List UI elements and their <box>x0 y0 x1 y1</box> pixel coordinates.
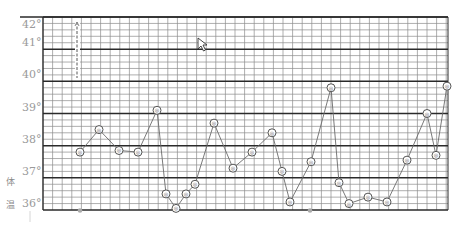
svg-text:◎: ◎ <box>250 149 255 155</box>
baseline-marker <box>308 208 313 213</box>
svg-text:◎: ◎ <box>155 107 160 113</box>
data-point: ◎ <box>345 200 353 208</box>
y-tick-label: 38° <box>22 133 42 146</box>
chart-grid <box>20 17 448 222</box>
data-point: ◎ <box>423 110 431 118</box>
baseline-marker <box>78 208 83 213</box>
data-point: ◎ <box>229 164 237 172</box>
data-point: ◎ <box>383 198 391 206</box>
svg-text:◎: ◎ <box>117 147 122 153</box>
data-point: ◎ <box>443 82 451 90</box>
data-point: ◎ <box>191 180 199 188</box>
y-tick-label: 42° <box>22 18 42 31</box>
data-point: ◎ <box>134 148 142 156</box>
data-point: ◎ <box>403 156 411 164</box>
y-tick-label: 40° <box>22 68 42 81</box>
svg-text:◎: ◎ <box>136 149 141 155</box>
data-point: ◎ <box>182 190 190 198</box>
svg-text:◎: ◎ <box>337 180 342 186</box>
y-tick-label: 36° <box>22 197 42 210</box>
data-point: ◎ <box>268 129 276 137</box>
svg-text:◎: ◎ <box>270 130 275 136</box>
data-point: ◎ <box>172 204 180 212</box>
svg-text:◎: ◎ <box>425 111 430 117</box>
data-point: ◎ <box>327 84 335 92</box>
data-point: ◎ <box>76 148 84 156</box>
temperature-chart: 42°41°40°39°38°37°36° 体 温 ◎◎◎◎◎◎◎◎◎◎◎◎◎◎… <box>0 0 465 226</box>
svg-text:◎: ◎ <box>405 157 410 163</box>
svg-text:◎: ◎ <box>231 165 236 171</box>
svg-text:◎: ◎ <box>366 194 371 200</box>
svg-text:◎: ◎ <box>164 191 169 197</box>
data-point: ◎ <box>162 190 170 198</box>
data-point: ◎ <box>95 126 103 134</box>
svg-text:◎: ◎ <box>193 181 198 187</box>
side-label-2: 温 <box>6 200 15 210</box>
svg-text:◎: ◎ <box>434 152 439 158</box>
y-tick-label: 39° <box>22 101 42 114</box>
data-point: ◎ <box>115 146 123 154</box>
svg-text:◎: ◎ <box>347 201 352 207</box>
y-tick-label: 41° <box>22 36 42 49</box>
side-label-1: 体 <box>6 176 15 187</box>
svg-text:◎: ◎ <box>329 85 334 91</box>
data-point: ◎ <box>432 151 440 159</box>
y-axis-labels: 42°41°40°39°38°37°36° <box>22 18 42 210</box>
data-point: ◎ <box>335 179 343 187</box>
svg-text:◎: ◎ <box>174 205 179 211</box>
data-point: ◎ <box>248 148 256 156</box>
data-point: ◎ <box>286 198 294 206</box>
svg-text:◎: ◎ <box>212 120 217 126</box>
svg-text:◎: ◎ <box>280 168 285 174</box>
svg-text:◎: ◎ <box>309 159 314 165</box>
data-point: ◎ <box>307 158 315 166</box>
y-tick-label: 37° <box>22 165 42 178</box>
data-point: ◎ <box>278 167 286 175</box>
data-point: ◎ <box>153 106 161 114</box>
svg-text:◎: ◎ <box>97 127 102 133</box>
svg-text:◎: ◎ <box>445 83 450 89</box>
svg-text:◎: ◎ <box>385 199 390 205</box>
svg-text:◎: ◎ <box>288 199 293 205</box>
svg-text:◎: ◎ <box>184 191 189 197</box>
data-point: ◎ <box>364 193 372 201</box>
data-point: ◎ <box>210 119 218 127</box>
svg-text:◎: ◎ <box>78 149 83 155</box>
